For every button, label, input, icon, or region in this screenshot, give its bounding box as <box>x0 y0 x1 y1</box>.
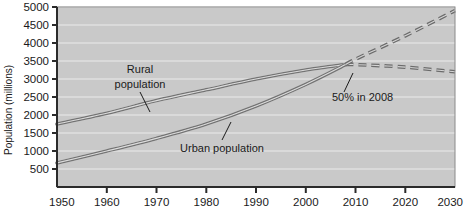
crossover-label: 50% in 2008 <box>332 91 393 103</box>
x-tick-label: 1980 <box>194 196 220 208</box>
y-tick-label: 1000 <box>23 145 49 157</box>
x-tick-label: 1970 <box>144 196 170 208</box>
x-tick-label: 2000 <box>293 196 319 208</box>
y-axis-title: Population (millions) <box>3 65 14 155</box>
x-tick-label: 1960 <box>94 196 120 208</box>
y-tick-label: 2500 <box>23 91 49 103</box>
y-tick-label: 2000 <box>23 109 49 121</box>
y-tick-label: 1500 <box>23 127 49 139</box>
y-tick-label: 5000 <box>23 1 49 13</box>
y-tick-label: 4000 <box>23 37 49 49</box>
x-tick-label: 2020 <box>393 196 419 208</box>
x-tick-label: 2030 <box>437 196 463 208</box>
y-tick-label: 3500 <box>23 55 49 67</box>
y-tick-label: 3000 <box>23 73 49 85</box>
rural-label-line2: population <box>115 78 166 90</box>
rural-label-line1: Rural <box>127 63 153 75</box>
y-tick-label: 500 <box>30 163 49 175</box>
x-tick-label: 1990 <box>243 196 269 208</box>
x-tick-label: 2010 <box>343 196 369 208</box>
population-chart: 5001000150020002500300035004000450050001… <box>0 0 470 216</box>
urban-label: Urban population <box>180 142 264 154</box>
y-tick-label: 4500 <box>23 19 49 31</box>
x-tick-label: 1950 <box>49 196 75 208</box>
